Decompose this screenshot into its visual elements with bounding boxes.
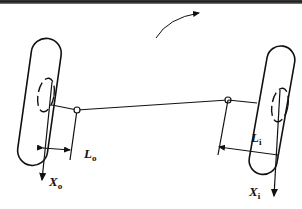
left-joint bbox=[74, 107, 80, 113]
steering-diagram: Lo Xo Li Xi bbox=[0, 0, 302, 209]
diagram-canvas: Lo Xo Li Xi bbox=[0, 0, 302, 209]
label-L-outer: Lo bbox=[83, 146, 97, 163]
left-offset-line bbox=[70, 110, 77, 160]
label-X-inner: Xi bbox=[248, 184, 261, 201]
right-offset-dimension bbox=[219, 147, 278, 155]
tie-rod bbox=[77, 100, 228, 110]
left-wheel bbox=[16, 36, 64, 167]
right-steering-arm bbox=[228, 100, 257, 103]
rotation-arrow-icon bbox=[156, 13, 199, 38]
label-X-outer: Xo bbox=[48, 174, 63, 191]
label-L-inner: Li bbox=[250, 130, 262, 147]
left-steering-arm bbox=[52, 105, 77, 110]
right-axis-line bbox=[274, 90, 280, 196]
